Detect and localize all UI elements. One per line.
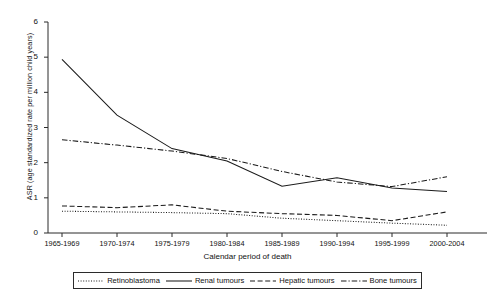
x-tick-label: 1990-1994	[307, 240, 367, 247]
y-tick-label: 2	[22, 159, 38, 167]
legend-label: Retinoblastoma	[107, 277, 160, 285]
y-tick-label: 1	[22, 194, 38, 202]
x-tick-label: 1995-1999	[362, 240, 422, 247]
y-tick-label: 4	[22, 88, 38, 96]
legend-label: Bone tumours	[370, 277, 417, 285]
x-tick-label: 1970-1974	[87, 240, 147, 247]
y-tick-label: 5	[22, 53, 38, 61]
legend-item-renal-tumours: Renal tumours	[163, 277, 247, 285]
x-tick-label: 1985-1989	[252, 240, 312, 247]
y-tick-label: 6	[22, 18, 38, 26]
y-tick-label: 3	[22, 124, 38, 132]
series-line-retinoblastoma	[62, 211, 447, 225]
legend-item-retinoblastoma: Retinoblastoma	[75, 277, 163, 285]
legend-label: Renal tumours	[195, 277, 244, 285]
series-line-bone-tumours	[62, 140, 447, 187]
x-tick-label: 2000-2004	[417, 240, 477, 247]
legend-swatch-icon	[78, 277, 104, 285]
chart-legend: RetinoblastomaRenal tumoursHepatic tumou…	[73, 272, 422, 289]
legend-swatch-icon	[341, 277, 367, 285]
legend-item-hepatic-tumours: Hepatic tumours	[247, 277, 337, 285]
series-line-renal-tumours	[62, 59, 447, 191]
x-tick-label: 1980-1984	[197, 240, 257, 247]
legend-swatch-icon	[166, 277, 192, 285]
legend-swatch-icon	[250, 277, 276, 285]
x-axis-title: Calendar period of death	[0, 252, 495, 261]
legend-label: Hepatic tumours	[279, 277, 334, 285]
x-tick-label: 1975-1979	[142, 240, 202, 247]
y-tick-label: 0	[22, 229, 38, 237]
legend-item-bone-tumours: Bone tumours	[338, 277, 420, 285]
chart-figure: ASR (age standardized rate per million c…	[0, 0, 495, 301]
series-line-hepatic-tumours	[62, 205, 447, 221]
x-tick-label: 1965-1969	[32, 240, 92, 247]
